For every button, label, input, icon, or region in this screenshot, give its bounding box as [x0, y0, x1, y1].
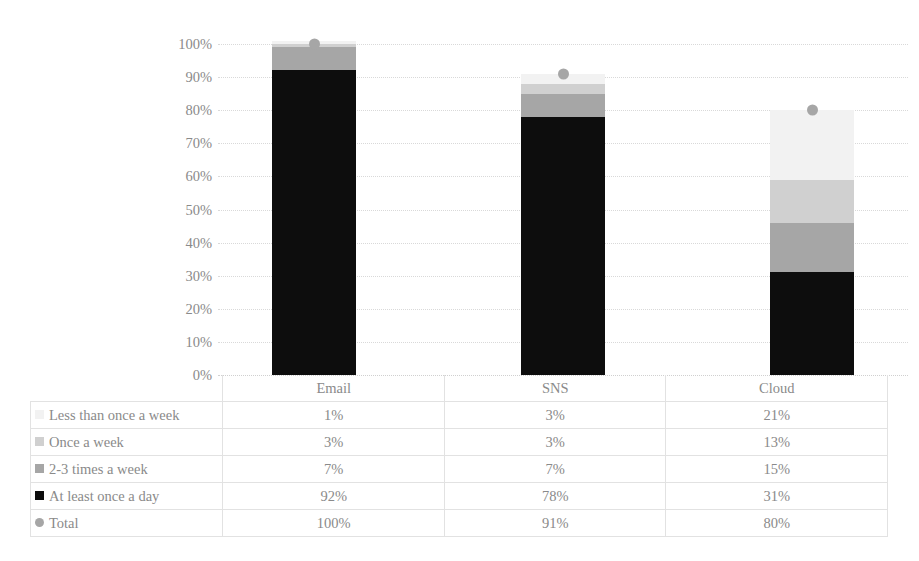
table-cell: 31% [666, 483, 888, 510]
bar-segment [521, 84, 605, 94]
table-body: EmailSNSCloudLess than once a week1%3%21… [31, 375, 888, 537]
y-axis-tick-label: 10% [150, 335, 212, 350]
legend-label: Once a week [49, 434, 124, 450]
data-table: EmailSNSCloudLess than once a week1%3%21… [30, 375, 888, 537]
legend-marker-icon [35, 464, 44, 473]
y-axis-tick-label: 40% [150, 235, 212, 250]
y-axis-tick-label: 20% [150, 302, 212, 317]
stacked-bar-chart: 100%90%80%70%60%50%40%30%20%10%0% EmailS… [0, 0, 919, 561]
y-axis-tick-label: 90% [150, 70, 212, 85]
bar-segment [521, 117, 605, 375]
table-cell: 7% [444, 456, 665, 483]
legend-entry: Once a week [31, 429, 223, 456]
y-axis-tick-label: 80% [150, 103, 212, 118]
y-axis-tick-label: 100% [150, 37, 212, 52]
bar-segment [770, 180, 854, 223]
table-cell: 1% [223, 402, 445, 429]
table-row: At least once a day92%78%31% [31, 483, 888, 510]
y-axis-tick-label: 60% [150, 169, 212, 184]
table-cell: 91% [444, 510, 665, 537]
bar-segment [770, 223, 854, 273]
table-header-row: EmailSNSCloud [31, 375, 888, 402]
bar-column-email [272, 41, 356, 375]
legend-entry: Less than once a week [31, 402, 223, 429]
table-cell: 3% [223, 429, 445, 456]
table-cell: 15% [666, 456, 888, 483]
table-cell: 3% [444, 402, 665, 429]
bar-segment [770, 272, 854, 375]
table-row: Less than once a week1%3%21% [31, 402, 888, 429]
legend-entry: At least once a day [31, 483, 223, 510]
bar-segment [521, 94, 605, 117]
table-row: Once a week3%3%13% [31, 429, 888, 456]
table-row: 2-3 times a week7%7%15% [31, 456, 888, 483]
legend-label: Total [49, 515, 79, 531]
legend-label: 2-3 times a week [49, 461, 148, 477]
legend-entry: Total [31, 510, 223, 537]
y-axis-tick-label: 70% [150, 136, 212, 151]
column-header-email: Email [223, 375, 445, 402]
legend-marker-icon [35, 437, 44, 446]
y-axis-tick-label: 30% [150, 268, 212, 283]
bar-column-cloud [770, 110, 854, 375]
column-header-sns: SNS [444, 375, 665, 402]
total-marker [309, 39, 320, 50]
table-cell: 21% [666, 402, 888, 429]
table-cell: 100% [223, 510, 445, 537]
y-axis-tick-label: 50% [150, 202, 212, 217]
total-marker [807, 105, 818, 116]
table-row: Total100%91%80% [31, 510, 888, 537]
bar-segment [272, 70, 356, 375]
table-cell: 7% [223, 456, 445, 483]
table-cell: 92% [223, 483, 445, 510]
legend-label: Less than once a week [49, 407, 179, 423]
table-cell: 78% [444, 483, 665, 510]
bar-column-sns [521, 74, 605, 375]
table-cell: 3% [444, 429, 665, 456]
total-marker [558, 68, 569, 79]
table-cell: 13% [666, 429, 888, 456]
table-corner-cell [31, 375, 223, 402]
plot-area [218, 44, 908, 375]
legend-marker-icon [35, 518, 44, 527]
y-axis: 100%90%80%70%60%50%40%30%20%10%0% [142, 44, 212, 375]
legend-entry: 2-3 times a week [31, 456, 223, 483]
bar-segment [272, 47, 356, 70]
table-cell: 80% [666, 510, 888, 537]
column-header-cloud: Cloud [666, 375, 888, 402]
legend-marker-icon [35, 410, 44, 419]
legend-label: At least once a day [49, 488, 159, 504]
legend-marker-icon [35, 491, 44, 500]
bar-segment [770, 110, 854, 180]
